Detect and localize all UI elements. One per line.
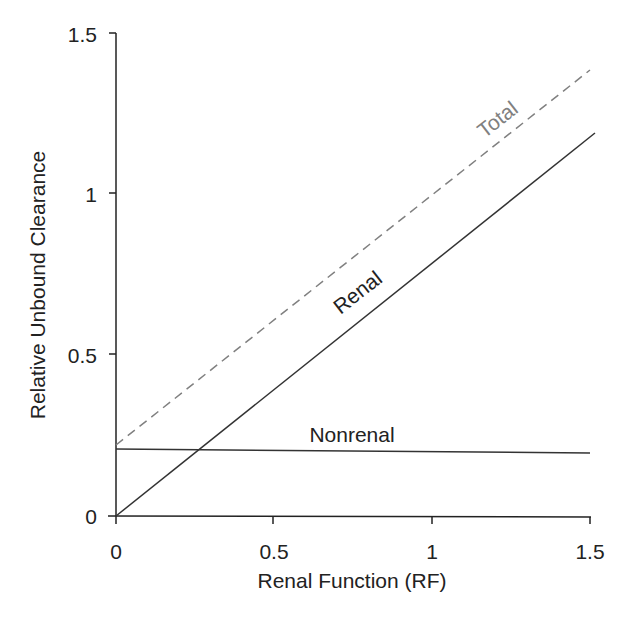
- x-tick-label: 1: [426, 540, 438, 563]
- total-line: [116, 70, 590, 445]
- x-axis-label: Renal Function (RF): [257, 569, 446, 592]
- y-tick-label: 1: [85, 183, 97, 206]
- chart: 1.5 1 0.5 0 0 0.5 1 1.5 Renal Function (…: [0, 0, 627, 634]
- y-tick-label: 0.5: [68, 344, 97, 367]
- y-axis-label: Relative Unbound Clearance: [26, 151, 49, 420]
- nonrenal-label: Nonrenal: [309, 423, 394, 446]
- x-tick-label: 0: [110, 540, 122, 563]
- nonrenal-line: [116, 449, 590, 453]
- total-label: Total: [473, 96, 522, 141]
- y-tick-label: 1.5: [68, 23, 97, 46]
- x-axis: [108, 516, 591, 517]
- renal-line: [116, 133, 595, 516]
- renal-label: Renal: [329, 266, 386, 318]
- x-tick-label: 0.5: [259, 540, 288, 563]
- x-tick-label: 1.5: [575, 540, 604, 563]
- y-tick-label: 0: [85, 505, 97, 528]
